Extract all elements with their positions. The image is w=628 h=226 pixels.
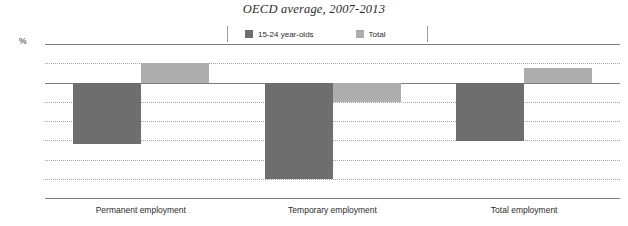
plot-area: 420-2-4-6-8-10-12 [45,44,620,198]
legend-label-15-24-year-olds: 15-24 year-olds [258,30,314,39]
gridline-2 [45,63,620,64]
bar-temporary-employment-total [333,83,401,102]
x-axis-label-permanent-employment: Permanent employment [45,205,237,215]
legend-swatch-dark [245,30,253,38]
bar-temporary-employment-15-24-year-olds [265,83,333,179]
bar-total-employment-15-24-year-olds [456,83,524,142]
gridline--8 [45,160,620,161]
bar-permanent-employment-total [141,63,209,82]
chart-legend: 15-24 year-olds Total [227,26,428,42]
x-axis-category-labels: Permanent employmentTemporary employment… [45,205,620,215]
x-axis-label-temporary-employment: Temporary employment [237,205,429,215]
gridline--10 [45,179,620,180]
gridline-4 [45,44,620,45]
legend-label-total: Total [369,30,386,39]
bar-permanent-employment-15-24-year-olds [73,83,141,145]
y-axis-unit-label: % [19,36,27,46]
chart-title: OECD average, 2007-2013 [0,2,628,17]
legend-item-15-24-year-olds: 15-24 year-olds [245,30,314,39]
x-axis-line [45,198,620,199]
x-axis-label-total-employment: Total employment [428,205,620,215]
chart-container: OECD average, 2007-2013 15-24 year-olds … [0,0,628,226]
bar-total-employment-total [524,68,592,82]
legend-item-total: Total [356,30,386,39]
legend-swatch-light [356,30,364,38]
